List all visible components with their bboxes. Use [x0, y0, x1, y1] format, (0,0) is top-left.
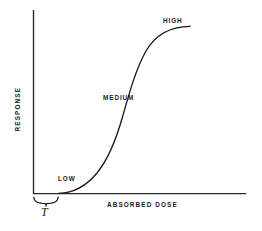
- threshold-brace-left: [34, 197, 46, 203]
- dose-response-figure: HIGH MEDIUM LOW T ABSORBED DOSE RESPONSE: [0, 0, 262, 231]
- chart-canvas: [0, 0, 262, 231]
- threshold-label: T: [41, 206, 48, 218]
- annotation-low: LOW: [58, 176, 76, 182]
- annotation-high: HIGH: [163, 18, 183, 24]
- y-axis-title: RESPONSE: [15, 79, 21, 139]
- annotation-medium: MEDIUM: [103, 95, 134, 101]
- threshold-brace-right: [46, 197, 58, 203]
- dose-response-curve: [59, 26, 191, 193]
- x-axis-title: ABSORBED DOSE: [107, 202, 178, 208]
